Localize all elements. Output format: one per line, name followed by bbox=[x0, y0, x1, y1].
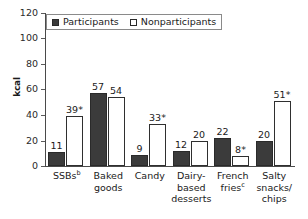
y-tick-mark bbox=[41, 38, 45, 39]
x-axis-label: SSBsb bbox=[46, 170, 88, 182]
bar-participants: 11 bbox=[48, 152, 65, 166]
y-tick-mark bbox=[41, 64, 45, 65]
x-axis-category-labels: SSBsbBakedgoodsCandyDairy-baseddessertsF… bbox=[46, 170, 295, 219]
bar-group: 1139* bbox=[46, 13, 88, 166]
bar-value-label: 57 bbox=[92, 82, 104, 92]
grouped-bar-chart: 120 100 80 60 40 20 0 kcal Participants … bbox=[0, 0, 308, 219]
bar-nonparticipants: 33* bbox=[149, 124, 166, 166]
bar-value-label: 22 bbox=[216, 127, 228, 137]
bar-participants: 22 bbox=[214, 138, 231, 166]
bar-value-label: 39* bbox=[66, 105, 83, 115]
bar-group: 2051* bbox=[254, 13, 296, 166]
bar-participants: 20 bbox=[256, 141, 273, 167]
plot-area: 1139*5754933*1220228*2051* bbox=[46, 13, 295, 166]
bar-group: 5754 bbox=[88, 13, 130, 166]
y-tick-label: 120 bbox=[8, 8, 38, 18]
bar-nonparticipants: 8* bbox=[232, 156, 249, 166]
x-axis-label: Dairy-baseddesserts bbox=[171, 170, 213, 205]
bar-nonparticipants: 54 bbox=[108, 97, 125, 166]
bar-nonparticipants: 39* bbox=[66, 116, 83, 166]
bar-participants: 12 bbox=[173, 151, 190, 166]
bar-value-label: 9 bbox=[136, 144, 142, 154]
y-tick-mark bbox=[41, 115, 45, 116]
x-axis-label: Bakedgoods bbox=[88, 170, 130, 193]
x-axis-line bbox=[45, 166, 295, 167]
y-axis-title: kcal bbox=[12, 57, 22, 117]
x-axis-label: Candy bbox=[129, 170, 171, 182]
bar-value-label: 54 bbox=[110, 86, 122, 96]
x-axis-label: Saltysnacks/chips bbox=[254, 170, 296, 205]
bar-value-label: 20 bbox=[258, 130, 270, 140]
bar-value-label: 12 bbox=[175, 140, 187, 150]
bar-value-label: 33* bbox=[149, 113, 166, 123]
bar-group: 1220 bbox=[171, 13, 213, 166]
bar-group: 228* bbox=[212, 13, 254, 166]
bar-value-label: 20 bbox=[193, 130, 205, 140]
y-tick-label: 0 bbox=[8, 161, 38, 171]
y-tick-mark bbox=[41, 13, 45, 14]
bar-nonparticipants: 20 bbox=[191, 141, 208, 167]
x-axis-label: Frenchfriesc bbox=[212, 170, 254, 193]
bar-participants: 9 bbox=[131, 155, 148, 166]
y-axis-tick-labels: 120 100 80 60 40 20 0 bbox=[6, 0, 38, 219]
bar-nonparticipants: 51* bbox=[274, 101, 291, 166]
bar-value-label: 11 bbox=[50, 141, 62, 151]
bar-participants: 57 bbox=[90, 93, 107, 166]
y-tick-mark bbox=[41, 141, 45, 142]
bar-value-label: 8* bbox=[235, 145, 246, 155]
bar-group: 933* bbox=[129, 13, 171, 166]
y-tick-label: 20 bbox=[8, 136, 38, 146]
y-tick-label: 100 bbox=[8, 33, 38, 43]
bar-value-label: 51* bbox=[274, 90, 291, 100]
y-tick-mark bbox=[41, 89, 45, 90]
y-tick-mark bbox=[41, 166, 45, 167]
